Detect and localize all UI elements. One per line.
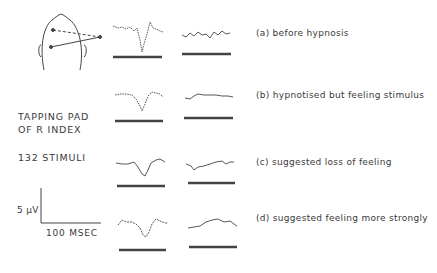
- stimulus-site-line1: TAPPING PAD: [18, 111, 89, 122]
- head-diagram-icon: [39, 14, 102, 70]
- trace-row-c: [116, 159, 235, 186]
- scale-voltage-label: 5 μV: [17, 205, 39, 215]
- condition-c-label: (c) suggested loss of feeling: [256, 157, 392, 167]
- stimulus-count: 132 STIMULI: [18, 152, 86, 163]
- scale-bar: [41, 188, 101, 223]
- trace-row-a: [113, 22, 231, 57]
- stimulus-site-line2: OF R INDEX: [18, 124, 81, 135]
- trace-row-d: [118, 219, 237, 250]
- condition-d-label: (d) suggested feeling more strongly: [256, 213, 428, 223]
- condition-b-label: (b) hypnotised but feeling stimulus: [256, 90, 424, 100]
- scale-time-label: 100 MSEC: [46, 228, 98, 238]
- condition-a-label: (a) before hypnosis: [256, 28, 349, 38]
- trace-row-b: [115, 92, 233, 121]
